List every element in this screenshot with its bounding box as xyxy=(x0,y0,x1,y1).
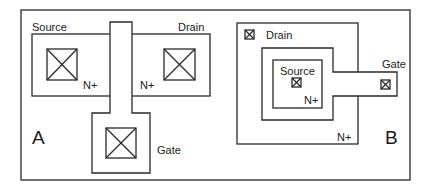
gate-poly-b xyxy=(262,48,397,120)
drain-contact-icon-b xyxy=(245,30,254,39)
drain-label-b: Drain xyxy=(266,29,292,41)
gate-label-a: Gate xyxy=(157,144,181,156)
transistor-layout-diagram: Source Drain N+ N+ Gate A xyxy=(0,0,429,190)
drain-contact-icon xyxy=(164,49,195,80)
gate-poly-a xyxy=(92,22,150,173)
layout-a: Source Drain N+ N+ Gate A xyxy=(32,21,210,173)
n-plus-label-b-inner: N+ xyxy=(304,94,318,106)
layout-b: Drain Source N+ N+ Gate B xyxy=(237,23,406,148)
gate-label-b: Gate xyxy=(382,58,406,70)
n-plus-label-a-left: N+ xyxy=(83,79,97,91)
source-contact-icon xyxy=(47,49,77,80)
panel-label-b: B xyxy=(385,127,398,148)
source-label-a: Source xyxy=(32,21,67,33)
panel-label-a: A xyxy=(32,127,45,148)
source-label-b: Source xyxy=(280,65,315,77)
drain-label-a: Drain xyxy=(178,21,204,33)
n-plus-label-a-right: N+ xyxy=(140,79,154,91)
n-plus-label-b-outer: N+ xyxy=(337,131,351,143)
